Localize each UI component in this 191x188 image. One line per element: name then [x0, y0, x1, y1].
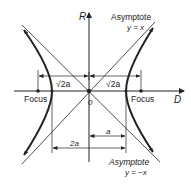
full-axis-label: 2a — [69, 139, 79, 148]
asymptote-1-equation: y = x — [126, 23, 145, 32]
asymptote-1-title: Asymptote — [111, 12, 151, 22]
d-axis-label: D — [174, 94, 181, 105]
focal-right-label: √2a — [106, 79, 120, 89]
origin-point — [87, 89, 91, 93]
r-axis-label: R — [79, 11, 86, 22]
origin-label: 0 — [88, 98, 93, 107]
asymptote-2-equation: y = −x — [124, 168, 148, 177]
semi-axis-label: a — [106, 127, 111, 136]
asymptote-2-title: Asymptote — [108, 157, 149, 167]
focal-left-label: √2a — [56, 79, 70, 89]
right-focus-label: Focus — [131, 94, 154, 104]
left-focus-label: Focus — [24, 94, 47, 104]
right-branch — [126, 28, 153, 152]
hyperbola-diagram: R D 0 Asymptote y = x Asymptote y = −x F… — [0, 0, 191, 188]
